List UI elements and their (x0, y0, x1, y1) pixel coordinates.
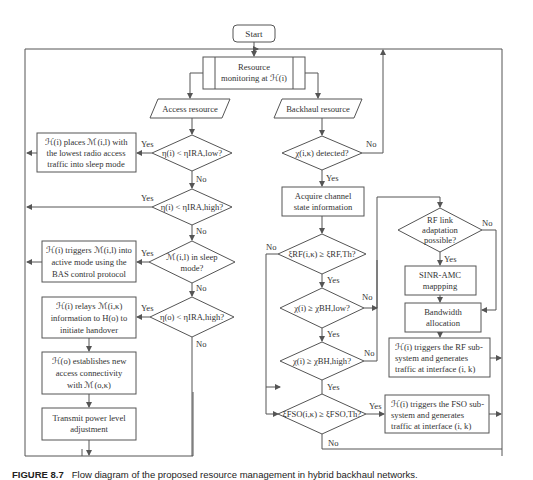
figure-number: FIGURE 8.7 (12, 469, 64, 480)
svg-text:with ℳ(o,κ): with ℳ(o,κ) (67, 380, 111, 390)
svg-text:No: No (482, 218, 493, 228)
svg-text:ξFSO(i,κ) ≥ ξFSO,Th?: ξFSO(i,κ) ≥ ξFSO,Th? (283, 409, 361, 419)
svg-text:ℋ(i) relays ℳ(i,κ): ℋ(i) relays ℳ(i,κ) (56, 301, 123, 311)
decision-chi-bh-low: χ(i) ≥ χBH,low? (280, 288, 364, 328)
process-rf-subsystem-trigger: ℋ(i) triggers the RF sub- system and gen… (389, 338, 490, 377)
svg-text:ℋ(i) places ℳ(i,l) with: ℋ(i) places ℳ(i,l) with (45, 137, 129, 147)
svg-text:No: No (362, 292, 373, 302)
svg-text:the lowest radio access: the lowest radio access (47, 148, 127, 158)
svg-text:initiate handover: initiate handover (60, 325, 118, 335)
svg-text:Access resource: Access resource (162, 104, 218, 114)
svg-text:No: No (196, 226, 207, 236)
svg-text:ξRF(i,κ) ≥ ξRF,Th?: ξRF(i,κ) ≥ ξRF,Th? (288, 249, 355, 259)
svg-text:Yes: Yes (141, 248, 154, 258)
process-relay-handover: ℋ(i) relays ℳ(i,κ) information to H(o) t… (42, 297, 136, 338)
process-power-adjustment: Transmit power level adjustment (42, 408, 136, 440)
process-acquire-csi: Acquire channel state information (282, 187, 364, 216)
svg-text:SINR-AMC: SINR-AMC (419, 270, 461, 280)
svg-text:ℳ(i,l) in sleep: ℳ(i,l) in sleep (166, 252, 217, 262)
decision-eta-high: η(i) < ηIRA,high? (152, 189, 232, 225)
svg-text:No: No (328, 438, 339, 448)
resource-monitoring-node: Resource monitoring at ℋ(i) (203, 57, 305, 89)
svg-text:χ(i) ≥ χBH,high?: χ(i) ≥ χBH,high? (292, 356, 351, 366)
decision-eta-low: η(i) < ηIRA,low? (152, 135, 232, 171)
decision-eta-high-o: η(o) < ηIRA,high? (150, 297, 234, 337)
decision-rf-link-adaptation: RF link adaptation possible? (398, 208, 482, 252)
svg-text:monitoring at ℋ(i): monitoring at ℋ(i) (221, 73, 287, 83)
svg-text:No: No (196, 283, 207, 293)
backhaul-resource-node: Backhaul resource (274, 99, 362, 118)
svg-text:Bandwidth: Bandwidth (424, 307, 462, 317)
svg-text:possible?: possible? (424, 235, 456, 245)
svg-text:Yes: Yes (326, 173, 339, 183)
process-active-mode: ℋ(i) triggers ℳ(i,l) into active mode us… (42, 241, 136, 282)
svg-text:Acquire channel: Acquire channel (295, 191, 352, 201)
svg-text:Transmit power level: Transmit power level (52, 413, 126, 423)
svg-text:traffic into sleep mode: traffic into sleep mode (47, 159, 125, 169)
svg-text:Yes: Yes (327, 382, 340, 392)
svg-text:allocation: allocation (426, 318, 461, 328)
svg-text:ℋ(o) establishes new: ℋ(o) establishes new (52, 356, 128, 366)
svg-text:η(o) < ηIRA,high?: η(o) < ηIRA,high? (160, 312, 224, 322)
process-sleep-mode: ℋ(i) places ℳ(i,l) with the lowest radio… (37, 133, 136, 172)
svg-text:mode?: mode? (181, 263, 204, 273)
svg-text:Backhaul resource: Backhaul resource (286, 104, 350, 114)
svg-text:Start: Start (245, 29, 263, 39)
decision-chi-detected: χ(i,κ) detected? (282, 136, 362, 170)
process-fso-subsystem-trigger: ℋ(i) triggers the FSO sub- system and ge… (385, 395, 489, 433)
svg-text:Resource: Resource (238, 62, 270, 72)
svg-text:η(i) < ηIRA,high?: η(i) < ηIRA,high? (161, 202, 223, 212)
svg-text:adaptation: adaptation (422, 225, 458, 235)
svg-text:adjustment: adjustment (70, 424, 108, 434)
svg-text:traffic at interface (i, k): traffic at interface (i, k) (395, 364, 475, 374)
svg-text:No: No (196, 174, 207, 184)
decision-xi-fso: ξFSO(i,κ) ≥ ξFSO,Th? (278, 394, 366, 434)
svg-text:No: No (364, 348, 375, 358)
svg-text:Yes: Yes (327, 329, 340, 339)
process-sinr-amc: SINR-AMC mappping (405, 266, 476, 295)
decision-chi-bh-high: χ(i) ≥ χBH,high? (280, 342, 364, 380)
svg-text:access connectivity: access connectivity (56, 368, 123, 378)
svg-text:ℋ(i) triggers the RF sub-: ℋ(i) triggers the RF sub- (395, 342, 483, 352)
decision-sleep-mode: ℳ(i,l) in sleep mode? (149, 241, 235, 283)
svg-text:η(i) < ηIRA,low?: η(i) < ηIRA,low? (162, 148, 222, 158)
start-node: Start (233, 25, 275, 42)
svg-text:ℋ(i) triggers the FSO sub-: ℋ(i) triggers the FSO sub- (391, 399, 484, 409)
access-resource-node: Access resource (150, 99, 230, 118)
svg-text:χ(i,κ) detected?: χ(i,κ) detected? (295, 148, 349, 158)
svg-text:No: No (366, 139, 377, 149)
svg-text:Yes: Yes (327, 275, 340, 285)
svg-text:information to H(o) to: information to H(o) to (51, 313, 128, 323)
svg-text:mappping: mappping (423, 281, 458, 291)
figure-caption-text: Flow diagram of the proposed resource ma… (72, 469, 418, 480)
decision-xi-rf: ξRF(i,κ) ≥ ξRF,Th? (278, 234, 366, 274)
svg-text:system and generates: system and generates (391, 410, 465, 420)
svg-text:RF link: RF link (427, 215, 454, 225)
svg-text:ℋ(i) triggers ℳ(i,l) into: ℋ(i) triggers ℳ(i,l) into (46, 245, 132, 255)
svg-text:No: No (196, 339, 207, 349)
svg-text:Yes: Yes (141, 303, 154, 313)
figure-caption: FIGURE 8.7Flow diagram of the proposed r… (12, 469, 418, 480)
svg-text:Yes: Yes (141, 139, 154, 149)
svg-text:state information: state information (294, 202, 353, 212)
svg-text:χ(i) ≥ χBH,low?: χ(i) ≥ χBH,low? (293, 303, 350, 313)
svg-text:BAS control protocol: BAS control protocol (52, 269, 127, 279)
process-establish-connectivity: ℋ(o) establishes new access connectivity… (42, 352, 136, 394)
svg-text:Yes: Yes (369, 401, 382, 411)
svg-text:traffic at interface (i, k): traffic at interface (i, k) (391, 421, 471, 431)
svg-text:Yes: Yes (141, 193, 154, 203)
svg-text:active mode using the: active mode using the (51, 257, 126, 267)
svg-text:system and generates: system and generates (395, 353, 469, 363)
svg-text:No: No (266, 242, 277, 252)
svg-text:Yes: Yes (444, 254, 457, 264)
process-bandwidth-allocation: Bandwidth allocation (405, 303, 481, 332)
